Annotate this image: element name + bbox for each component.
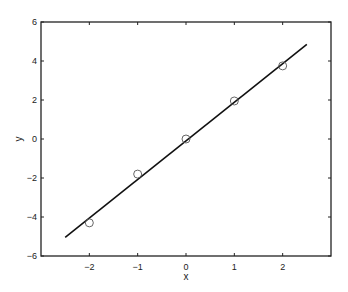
y-tick-label: 0 bbox=[32, 134, 37, 144]
x-tick-label: 2 bbox=[280, 262, 285, 272]
plot-area bbox=[41, 22, 331, 256]
y-tick-label: 2 bbox=[32, 95, 37, 105]
x-tick-label: −1 bbox=[133, 262, 143, 272]
y-tick-label: 4 bbox=[32, 56, 37, 66]
y-tick-label: −6 bbox=[27, 251, 37, 261]
y-axis-label: y bbox=[13, 137, 24, 142]
scatter-plot-with-fit-line: −2−1012 −6−4−20246 x y bbox=[0, 0, 348, 292]
y-tick-label: 6 bbox=[32, 17, 37, 27]
y-tick-label: −4 bbox=[27, 212, 37, 222]
y-tick-label: −2 bbox=[27, 173, 37, 183]
x-tick-label: −2 bbox=[84, 262, 94, 272]
x-axis-label: x bbox=[184, 271, 189, 282]
x-tick-label: 1 bbox=[232, 262, 237, 272]
